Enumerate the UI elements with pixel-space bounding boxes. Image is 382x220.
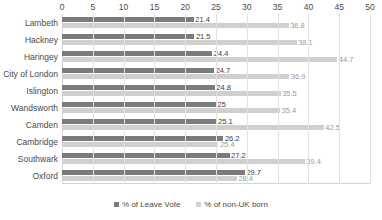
- category-label: Oxford: [32, 171, 58, 181]
- legend-label: % of Leave Vote: [122, 200, 180, 209]
- bar-non-uk-born: [62, 91, 281, 96]
- legend-label: % of non-UK born: [204, 200, 268, 209]
- bar-leave-vote: [62, 136, 223, 141]
- category-axis-labels: LambethHackneyHaringeyCity of LondonIsli…: [0, 14, 58, 184]
- gridline: [278, 14, 279, 184]
- bar-leave-vote: [62, 51, 212, 56]
- legend-swatch-icon: [196, 202, 201, 207]
- bar-leave-vote: [62, 102, 216, 107]
- bar-value-label: 36.8: [290, 21, 305, 30]
- x-axis-tick: 15: [150, 2, 159, 12]
- category-label: Hackney: [25, 35, 58, 45]
- category-label: Haringey: [24, 52, 58, 62]
- category-label: Islington: [26, 86, 58, 96]
- x-axis-tick: 25: [211, 2, 220, 12]
- gridline: [216, 14, 217, 184]
- x-axis-ticks: 05101520253035404550: [62, 2, 370, 14]
- x-axis-tick: 10: [119, 2, 128, 12]
- bar-non-uk-born: [62, 40, 297, 45]
- legend-swatch-icon: [114, 202, 119, 207]
- gridline: [339, 14, 340, 184]
- bar-non-uk-born: [62, 125, 324, 130]
- gridline: [247, 14, 248, 184]
- bar-non-uk-born: [62, 159, 305, 164]
- bar-non-uk-born: [62, 176, 237, 181]
- bar-non-uk-born: [62, 23, 289, 28]
- plot-area: 21.436.821.538.124.444.724.736.924.835.5…: [62, 14, 370, 184]
- category-label: Wandsworth: [11, 103, 58, 113]
- x-axis-tick: 0: [60, 2, 65, 12]
- bar-leave-vote: [62, 119, 217, 124]
- bar-non-uk-born: [62, 142, 218, 147]
- bar-value-label: 28.4: [238, 174, 253, 183]
- x-axis-tick: 5: [90, 2, 95, 12]
- gridline: [93, 14, 94, 184]
- bar-non-uk-born: [62, 74, 289, 79]
- category-label: Lambeth: [25, 18, 58, 28]
- x-axis-tick: 20: [180, 2, 189, 12]
- chart-legend: % of Leave Vote% of non-UK born: [0, 196, 382, 212]
- bar-leave-vote: [62, 34, 194, 39]
- x-axis-tick: 50: [365, 2, 374, 12]
- bar-chart: 05101520253035404550 LambethHackneyHarin…: [0, 0, 382, 220]
- bar-leave-vote: [62, 68, 214, 73]
- category-label: City of London: [3, 69, 58, 79]
- bar-value-label: 35.5: [282, 89, 297, 98]
- x-axis-tick: 30: [242, 2, 251, 12]
- x-axis-tick: 40: [304, 2, 313, 12]
- bar-value-label: 25.4: [220, 140, 235, 149]
- legend-item[interactable]: % of non-UK born: [196, 200, 268, 209]
- bar-value-label: 42.5: [325, 123, 340, 132]
- gridline: [185, 14, 186, 184]
- gridline: [308, 14, 309, 184]
- bar-non-uk-born: [62, 57, 337, 62]
- x-axis-tick: 45: [334, 2, 343, 12]
- category-label: Camden: [26, 120, 58, 130]
- category-label: Southwark: [18, 154, 58, 164]
- bar-value-label: 36.9: [291, 72, 306, 81]
- bar-value-label: 38.1: [298, 38, 313, 47]
- bar-leave-vote: [62, 17, 194, 22]
- bar-value-label: 44.7: [339, 55, 354, 64]
- legend-item[interactable]: % of Leave Vote: [114, 200, 180, 209]
- gridline: [124, 14, 125, 184]
- x-axis-tick: 35: [273, 2, 282, 12]
- bar-leave-vote: [62, 153, 230, 158]
- gridline: [154, 14, 155, 184]
- category-label: Cambridge: [16, 137, 58, 147]
- bar-value-label: 35.4: [282, 106, 297, 115]
- bar-leave-vote: [62, 85, 215, 90]
- gridline: [370, 14, 371, 184]
